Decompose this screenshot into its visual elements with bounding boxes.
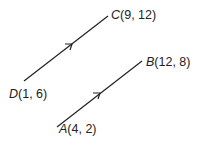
label-point-c: C(9, 12) [111,9,156,22]
point-c-coords: (9, 12) [120,8,156,22]
label-point-b: B(12, 8) [146,56,190,69]
vector-diagram [0,0,204,146]
point-b-coords: (12, 8) [154,55,190,69]
label-point-d: D(1, 6) [9,88,47,101]
label-point-a: A(4, 2) [59,123,97,136]
segment-dc [24,16,108,81]
point-a-coords: (4, 2) [67,122,96,136]
point-d-letter: D [9,87,18,101]
point-c-letter: C [111,8,120,22]
point-d-coords: (1, 6) [18,87,47,101]
